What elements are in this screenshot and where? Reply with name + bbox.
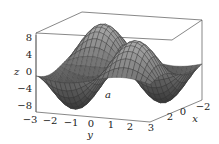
svg-text:x: x <box>192 113 198 124</box>
svg-text:z: z <box>13 66 20 77</box>
svg-text:1: 1 <box>108 119 114 130</box>
svg-text:−3: −3 <box>23 114 38 125</box>
svg-text:−2: −2 <box>43 115 58 126</box>
annotation-label: a <box>105 89 111 100</box>
svg-text:−1: −1 <box>64 117 79 128</box>
svg-text:3: 3 <box>148 122 154 133</box>
svg-text:−4: −4 <box>17 83 32 94</box>
x-axis: 2 0 −2 x <box>150 100 210 124</box>
svg-text:y: y <box>86 129 93 140</box>
svg-text:0: 0 <box>26 66 32 77</box>
svg-text:2: 2 <box>127 121 133 132</box>
svg-text:8: 8 <box>26 32 32 43</box>
svg-text:−2: −2 <box>196 101 211 112</box>
z-axis: 8 4 0 −4 −8 z <box>13 32 36 112</box>
svg-text:0: 0 <box>180 106 186 117</box>
svg-text:4: 4 <box>26 49 32 60</box>
svg-text:2: 2 <box>167 111 173 122</box>
y-axis: −3 −2 −1 0 1 2 3 y <box>23 112 155 140</box>
svg-text:0: 0 <box>88 118 94 129</box>
svg-text:−8: −8 <box>17 100 32 111</box>
surface-plot: 8 4 0 −4 −8 z −3 −2 −1 0 1 2 3 y 2 0 −2 … <box>0 0 219 144</box>
